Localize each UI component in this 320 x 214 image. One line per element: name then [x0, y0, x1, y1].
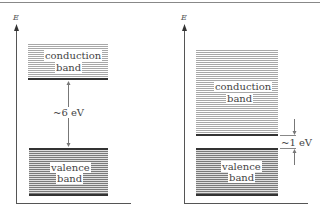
right-gap-label: ~1 eV — [281, 137, 312, 148]
right-gap-arrows-icon — [0, 0, 320, 214]
